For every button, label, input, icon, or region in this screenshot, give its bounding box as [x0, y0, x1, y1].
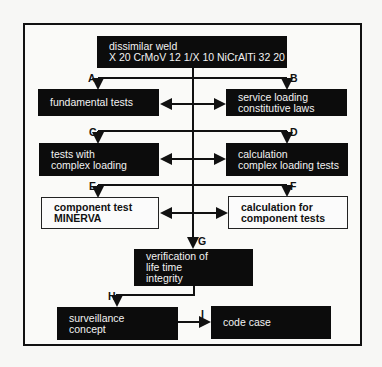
edge-label-f: F [290, 181, 296, 191]
node-dissimilar-weld: dissimilar weld X 20 CrMoV 12 1/X 10 NiC… [97, 36, 287, 68]
node-text: complex loading [51, 160, 159, 171]
edge-label-i: I [201, 309, 204, 319]
node-text: surveillance [69, 313, 178, 324]
node-service-loading: service loading constitutive laws [226, 89, 347, 116]
node-calculation-component-tests: calculation for component tests [228, 196, 348, 229]
node-text: component tests [241, 213, 347, 224]
node-text: calculation [238, 149, 348, 160]
edge-label-d: D [290, 127, 298, 137]
node-text: tests with [51, 149, 159, 160]
node-text: fundamental tests [50, 97, 159, 108]
node-text: calculation for [241, 202, 347, 213]
node-tests-complex-loading: tests with complex loading [39, 143, 159, 176]
node-fundamental-tests: fundamental tests [38, 89, 159, 116]
node-text: code case [223, 317, 331, 328]
node-text: concept [69, 324, 178, 335]
node-text: service loading [238, 92, 347, 103]
node-calculation-complex-loading: calculation complex loading tests [226, 143, 348, 176]
node-verification-life-time: verification of life time integrity [134, 249, 253, 286]
node-text: X 20 CrMoV 12 1/X 10 NiCrAlTi 32 20 [109, 52, 287, 63]
edge-label-h: H [108, 291, 116, 301]
node-text: MINERVA [54, 213, 158, 224]
node-code-case: code case [211, 306, 331, 339]
edge-label-g: G [198, 236, 206, 246]
node-text: complex loading tests [238, 160, 348, 171]
node-text: constitutive laws [238, 103, 347, 114]
node-component-test-minerva: component test MINERVA [41, 197, 159, 229]
node-surveillance-concept: surveillance concept [57, 307, 178, 340]
edge-label-e: E [89, 181, 96, 191]
edge-label-b: B [290, 73, 298, 83]
edge-label-a: A [88, 73, 96, 83]
node-text: integrity [146, 273, 253, 284]
edge-label-c: C [89, 127, 97, 137]
